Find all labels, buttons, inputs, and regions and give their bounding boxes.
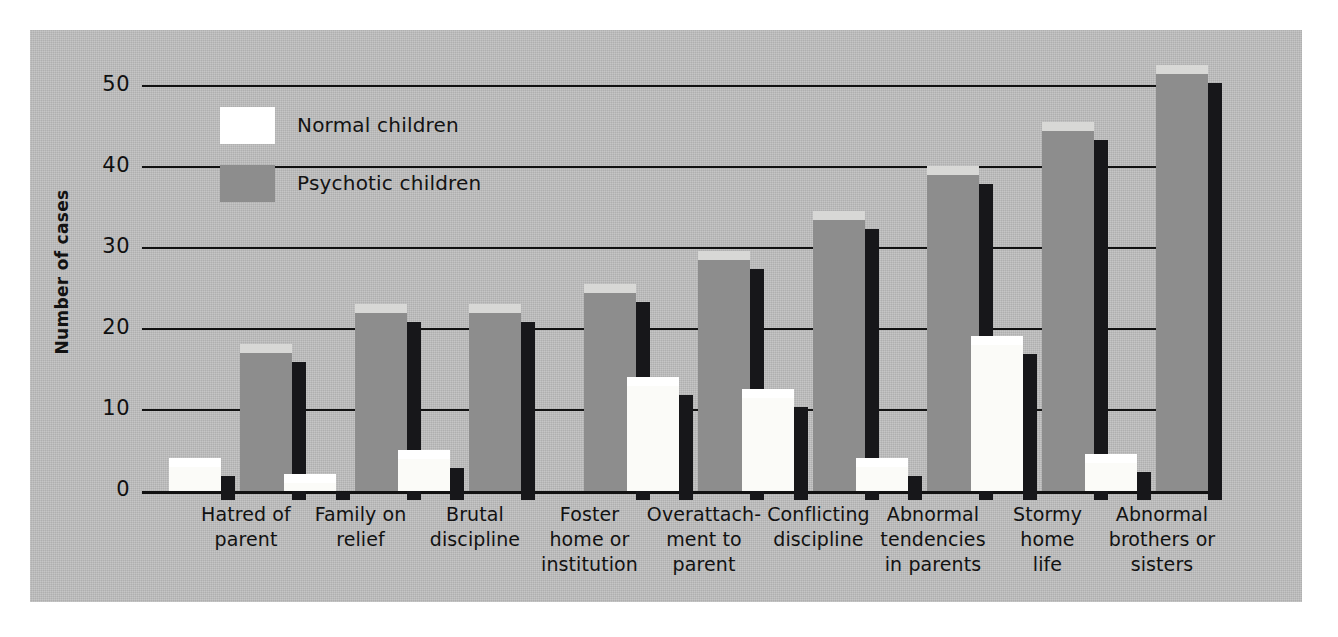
x-axis-category-line: parent bbox=[637, 552, 772, 577]
bar-top-face bbox=[627, 377, 679, 386]
legend-entry-psychotic: Psychotic children bbox=[220, 161, 481, 205]
bar-normal-children bbox=[856, 467, 908, 491]
bar-front-face bbox=[1156, 74, 1208, 491]
bar-front-face bbox=[813, 220, 865, 491]
bar-front-face bbox=[1042, 131, 1094, 491]
bar-shadow bbox=[221, 476, 235, 500]
x-axis-category-line: sisters bbox=[1095, 552, 1230, 577]
x-axis-category-line: Abnormal bbox=[1095, 502, 1230, 527]
bar-normal-children bbox=[742, 398, 794, 491]
bar-psychotic-children bbox=[813, 220, 865, 491]
bar-top-face bbox=[355, 304, 407, 313]
bar-top-face bbox=[1085, 454, 1137, 463]
y-axis-tick-label: 10 bbox=[60, 396, 130, 420]
y-axis-title: Number of cases bbox=[52, 162, 72, 382]
bar-top-face bbox=[927, 166, 979, 175]
bar-top-face bbox=[698, 251, 750, 260]
legend-entry-normal: Normal children bbox=[220, 103, 481, 147]
bar-front-face bbox=[971, 345, 1023, 491]
bar-normal-children bbox=[971, 345, 1023, 491]
legend-swatch-normal-icon bbox=[220, 107, 275, 144]
bar-top-face bbox=[813, 211, 865, 220]
bar-psychotic-children bbox=[240, 353, 292, 491]
bar-top-face bbox=[1042, 122, 1094, 131]
bar-top-face bbox=[240, 344, 292, 353]
bar-front-face bbox=[240, 353, 292, 491]
x-axis-category-line: brothers or bbox=[1095, 527, 1230, 552]
legend-label-psychotic: Psychotic children bbox=[297, 171, 481, 195]
legend-swatch-psychotic-icon bbox=[220, 165, 275, 202]
gridline bbox=[142, 85, 1202, 87]
legend-label-normal: Normal children bbox=[297, 113, 459, 137]
bar-top-face bbox=[742, 389, 794, 398]
plot-area: 01020304050 Number of cases Hatred ofpar… bbox=[30, 30, 1302, 602]
bar-shadow bbox=[1094, 140, 1108, 500]
bar-top-face bbox=[584, 284, 636, 293]
bar-shadow bbox=[1137, 472, 1151, 500]
bar-shadow bbox=[908, 476, 922, 500]
bar-normal-children bbox=[284, 483, 336, 491]
bar-top-face bbox=[284, 474, 336, 483]
bar-front-face bbox=[1085, 463, 1137, 491]
bar-front-face bbox=[284, 483, 336, 491]
bar-normal-children bbox=[398, 459, 450, 491]
bar-shadow bbox=[450, 468, 464, 500]
bar-top-face bbox=[856, 458, 908, 467]
bar-front-face bbox=[627, 386, 679, 491]
bar-shadow bbox=[336, 492, 350, 500]
bar-top-face bbox=[398, 450, 450, 459]
bar-top-face bbox=[971, 336, 1023, 345]
chart-panel: 01020304050 Number of cases Hatred ofpar… bbox=[30, 30, 1302, 602]
bar-normal-children bbox=[627, 386, 679, 491]
x-axis-category-label: Abnormalbrothers orsisters bbox=[1095, 502, 1230, 577]
bar-psychotic-children bbox=[469, 313, 521, 491]
bar-front-face bbox=[856, 467, 908, 491]
bar-top-face bbox=[469, 304, 521, 313]
chart-legend: Normal children Psychotic children bbox=[220, 103, 481, 219]
bar-front-face bbox=[469, 313, 521, 491]
bar-shadow bbox=[679, 395, 693, 500]
bar-front-face bbox=[742, 398, 794, 491]
bar-shadow bbox=[521, 322, 535, 500]
bar-psychotic-children bbox=[1156, 74, 1208, 491]
bar-front-face bbox=[398, 459, 450, 491]
bar-front-face bbox=[169, 467, 221, 491]
bar-top-face bbox=[1156, 65, 1208, 74]
bar-shadow bbox=[1208, 83, 1222, 500]
bar-shadow bbox=[794, 407, 808, 500]
figure: 01020304050 Number of cases Hatred ofpar… bbox=[0, 0, 1338, 637]
bar-shadow bbox=[1023, 354, 1037, 500]
y-axis-tick-label: 0 bbox=[60, 477, 130, 501]
bar-normal-children bbox=[1085, 463, 1137, 491]
bar-top-face bbox=[169, 458, 221, 467]
bar-normal-children bbox=[169, 467, 221, 491]
y-axis-tick-label: 50 bbox=[60, 72, 130, 96]
bar-psychotic-children bbox=[1042, 131, 1094, 491]
